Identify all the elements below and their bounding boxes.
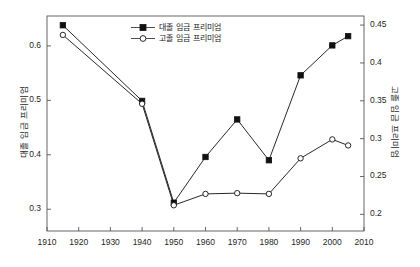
legend-item-highschool: 고졸 임금 프리미엄 bbox=[130, 33, 221, 44]
y-axis-left-tick-label: 0.5 bbox=[15, 94, 41, 104]
x-axis-tick-label: 1980 bbox=[252, 237, 286, 247]
x-axis-tick-label: 1950 bbox=[157, 237, 191, 247]
x-axis-tick-label: 1910 bbox=[30, 237, 64, 247]
legend-label-college: 대졸 임금 프리미엄 bbox=[159, 22, 221, 33]
x-axis-tick-label: 1960 bbox=[189, 237, 223, 247]
x-axis-tick-label: 1990 bbox=[284, 237, 318, 247]
chart-legend: 대졸 임금 프리미엄 고졸 임금 프리미엄 bbox=[130, 22, 221, 44]
x-axis-tick-label: 1940 bbox=[125, 237, 159, 247]
y-axis-right-tick-label: 0.45 bbox=[370, 19, 400, 29]
y-axis-right-tick-label: 0.4 bbox=[370, 57, 400, 67]
wage-premium-line-chart: 대졸 임금 프리미엄 고졸 임금 프리미엄 0.30.40.50.6 0.20.… bbox=[0, 0, 420, 267]
y-axis-left-tick-label: 0.3 bbox=[15, 203, 41, 213]
x-axis-tick-label: 1930 bbox=[93, 237, 127, 247]
y-axis-right-tick-label: 0.35 bbox=[370, 95, 400, 105]
legend-item-college: 대졸 임금 프리미엄 bbox=[130, 22, 221, 33]
y-axis-left-tick-label: 0.6 bbox=[15, 40, 41, 50]
x-axis-tick-label: 1970 bbox=[220, 237, 254, 247]
y-axis-left-tick-label: 0.4 bbox=[15, 149, 41, 159]
legend-label-highschool: 고졸 임금 프리미엄 bbox=[159, 33, 221, 44]
y-axis-left-title: 대졸 임금 프리미엄 bbox=[17, 57, 29, 187]
y-axis-right-tick-label: 0.25 bbox=[370, 170, 400, 180]
filled-square-marker-icon bbox=[130, 22, 156, 33]
open-circle-marker-icon bbox=[130, 33, 156, 44]
y-axis-right-tick-label: 0.2 bbox=[370, 208, 400, 218]
x-axis-tick-label: 1920 bbox=[62, 237, 96, 247]
x-axis-tick-label: 2000 bbox=[315, 237, 349, 247]
y-axis-right-title: 고졸 임금 프리미엄 bbox=[390, 57, 402, 187]
y-axis-right-tick-label: 0.3 bbox=[370, 133, 400, 143]
x-axis-tick-label: 2010 bbox=[347, 237, 381, 247]
